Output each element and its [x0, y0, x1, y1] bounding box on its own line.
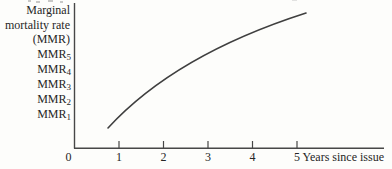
- x-tick-label-3: 3: [197, 151, 219, 164]
- mortality-curve: [108, 13, 306, 128]
- y-axis-title-line-1: Marginal: [0, 3, 70, 18]
- y-axis-label-mmr5: MMR5: [0, 47, 71, 62]
- mortality-rate-figure: Marginal mortality rate (MMR) MMR5MMR4MM…: [0, 0, 392, 169]
- y-axis-title-line-3: (MMR): [0, 32, 70, 47]
- y-axis-title: Marginal mortality rate (MMR): [0, 3, 70, 47]
- x-tick-label-1: 1: [108, 151, 130, 164]
- y-axis-title-line-2: mortality rate: [0, 18, 70, 33]
- y-axis-labels: MMR5MMR4MMR3MMR2MMR1: [0, 47, 71, 122]
- x-axis-title: Years since issue: [303, 151, 384, 164]
- y-axis-label-mmr4: MMR4: [0, 62, 71, 77]
- x-tick-label-0: 0: [58, 151, 80, 164]
- x-tick-label-4: 4: [242, 151, 264, 164]
- y-axis-label-mmr3: MMR3: [0, 77, 71, 92]
- y-axis-label-mmr2: MMR2: [0, 92, 71, 107]
- x-tick-label-2: 2: [153, 151, 175, 164]
- y-axis-label-mmr1: MMR1: [0, 107, 71, 122]
- x-axis-tick-marks: [119, 141, 297, 148]
